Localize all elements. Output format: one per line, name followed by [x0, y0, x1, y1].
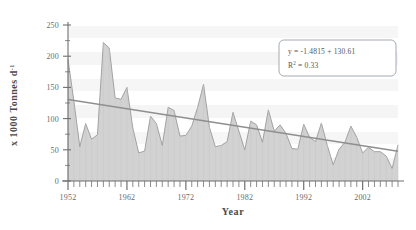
x-tick-label: 1952: [60, 193, 77, 202]
x-axis-title: Year: [222, 206, 244, 217]
x-tick-label: 1972: [177, 193, 194, 202]
x-tick-label: 1992: [295, 193, 312, 202]
y-tick-label: 150: [46, 83, 59, 92]
x-tick-label: 2002: [354, 193, 371, 202]
y-tick-label: 100: [46, 115, 59, 124]
y-axis-title: x 1000 Tonnes d-1: [8, 64, 19, 146]
y-axis-title-text: x 1000 Tonnes d: [8, 70, 19, 146]
regression-equation-line: y = -1.4815 + 130.61: [288, 47, 356, 56]
regression-annotation: y = -1.4815 + 130.61 R2 = 0.33: [279, 40, 396, 76]
x-tick-label: 1982: [236, 193, 253, 202]
regression-box: [279, 40, 396, 76]
y-tick-label: 0: [55, 177, 59, 186]
y-tick-label: 250: [46, 21, 59, 30]
x-axis-ticks: 195219621972198219922002: [60, 181, 398, 202]
svg-text:x 1000 Tonnes d-1: x 1000 Tonnes d-1: [8, 64, 19, 146]
chart-container: 050100150200250 195219621972198219922002…: [0, 0, 416, 230]
y-tick-label: 200: [46, 52, 59, 61]
y-axis-ticks: 050100150200250: [46, 21, 71, 186]
landings-time-series-chart: 050100150200250 195219621972198219922002…: [0, 0, 416, 230]
y-tick-label: 50: [51, 146, 59, 155]
y-axis-title-exponent: -1: [8, 64, 15, 70]
r-squared-line: R2 = 0.33: [288, 60, 319, 70]
x-tick-label: 1962: [119, 193, 136, 202]
